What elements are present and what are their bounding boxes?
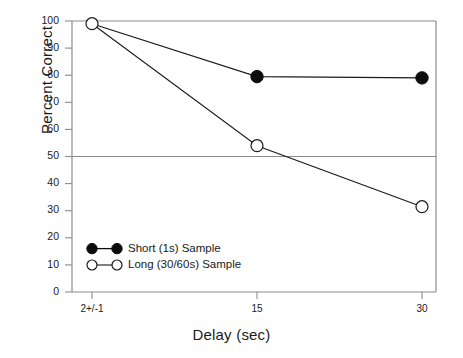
- y-tick-label-0: 0: [19, 285, 59, 297]
- x-tick-label-1: 15: [227, 303, 287, 314]
- chart-container: 100 90 80 70 60 50 40 30 20 10 0 2+/-1 1…: [0, 0, 463, 358]
- legend-marker-long: [87, 260, 122, 270]
- y-tick-label-20: 20: [19, 230, 59, 242]
- legend-entry-long: Long (30/60s) Sample: [128, 258, 241, 270]
- x-tick-label-2: 30: [392, 303, 452, 314]
- x-axis-ticks: [92, 292, 422, 299]
- legend-entry-short: Short (1s) Sample: [128, 242, 221, 254]
- y-axis-ticks: [65, 21, 72, 292]
- y-axis-title: Percent Correct: [38, 0, 58, 180]
- legend-marker-short: [87, 243, 122, 253]
- x-axis-title: Delay (sec): [0, 326, 463, 343]
- series-markers-long: [86, 18, 428, 213]
- series-line-short: [92, 24, 422, 78]
- x-tick-label-0: 2+/-1: [62, 303, 122, 314]
- series-line-long: [92, 24, 422, 207]
- y-tick-label-30: 30: [19, 203, 59, 215]
- y-tick-label-10: 10: [19, 258, 59, 270]
